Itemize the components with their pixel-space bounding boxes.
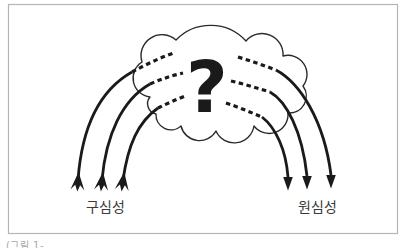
arrow-fletching-icon bbox=[70, 172, 85, 192]
diagram-page: ? 구심성 원심성 bbox=[0, 0, 408, 248]
afferent-efferent-diagram: ? 구심성 원심성 bbox=[0, 0, 408, 248]
caption-fragment: (그림 1- bbox=[6, 240, 44, 248]
arrow-fletching-icon bbox=[94, 171, 110, 192]
question-mark: ? bbox=[186, 45, 228, 129]
arrowhead-icon bbox=[326, 175, 336, 189]
arrowhead-icon bbox=[302, 176, 312, 190]
efferent-label: 원심성 bbox=[298, 199, 337, 215]
afferent-label: 구심성 bbox=[86, 199, 125, 215]
arrowhead-icon bbox=[283, 177, 293, 191]
afferent-arrow-solid bbox=[123, 108, 158, 180]
